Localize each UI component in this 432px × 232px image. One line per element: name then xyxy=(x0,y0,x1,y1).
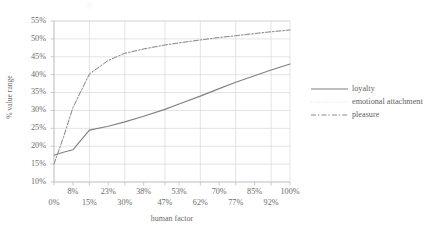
plot-svg xyxy=(54,21,290,182)
y-axis-tick-label: 25% xyxy=(31,124,46,132)
plot-area xyxy=(54,21,290,182)
x-axis-tick-label: 15% xyxy=(82,199,97,207)
y-axis-tick-label: 45% xyxy=(31,53,46,61)
legend-item-label: pleasure xyxy=(348,110,379,119)
line-dotted-icon xyxy=(311,97,348,107)
x-axis-tick-label: 70% xyxy=(212,188,227,196)
x-axis-tick-label: 92% xyxy=(264,199,279,207)
legend-item-pleasure[interactable]: pleasure xyxy=(311,108,431,121)
y-axis-tick-label: 55% xyxy=(31,17,46,25)
x-axis-tick-label: 8% xyxy=(67,188,78,196)
line-dash-dot-icon xyxy=(311,110,348,120)
legend-item-label: loyalty xyxy=(348,84,375,93)
x-axis-tick-label: 23% xyxy=(101,188,116,196)
x-axis-tick-label: 77% xyxy=(228,199,243,207)
x-axis-tick-labels: 8%23%38%53%70%85%100%0%15%30%47%62%77%92… xyxy=(54,182,290,208)
legend-item-label: emotional attachment xyxy=(348,97,423,106)
y-axis-tick-label: 30% xyxy=(31,106,46,114)
y-axis-title: % value range xyxy=(6,57,14,137)
axis-tick-marks xyxy=(51,21,291,186)
y-axis-tick-label: 10% xyxy=(31,178,46,186)
chart-container: 55%50%45%40%35%30%25%20%15%10% % value r… xyxy=(0,0,432,232)
legend-item-emotional-attachment[interactable]: emotional attachment xyxy=(311,95,431,108)
x-axis-title: human factor xyxy=(54,214,290,223)
legend-item-loyalty[interactable]: loyalty xyxy=(311,82,431,95)
x-axis-tick-label: 47% xyxy=(157,199,172,207)
y-axis-tick-label: 40% xyxy=(31,71,46,79)
x-axis-tick-label: 38% xyxy=(136,188,151,196)
decorative-artifact xyxy=(86,2,93,9)
y-axis-tick-label: 50% xyxy=(31,35,46,43)
x-axis-tick-label: 30% xyxy=(117,199,132,207)
x-axis-tick-label: 0% xyxy=(49,199,60,207)
x-axis-tick-label: 53% xyxy=(172,188,187,196)
x-axis-tick-label: 85% xyxy=(247,188,262,196)
line-solid-icon xyxy=(311,84,348,94)
y-axis-tick-label: 35% xyxy=(31,88,46,96)
y-axis-tick-label: 15% xyxy=(31,160,46,168)
x-axis-tick-label: 62% xyxy=(193,199,208,207)
x-axis-tick-label: 100% xyxy=(280,188,299,196)
chart-legend: loyaltyemotional attachmentpleasure xyxy=(311,82,431,121)
y-axis-tick-label: 20% xyxy=(31,142,46,150)
